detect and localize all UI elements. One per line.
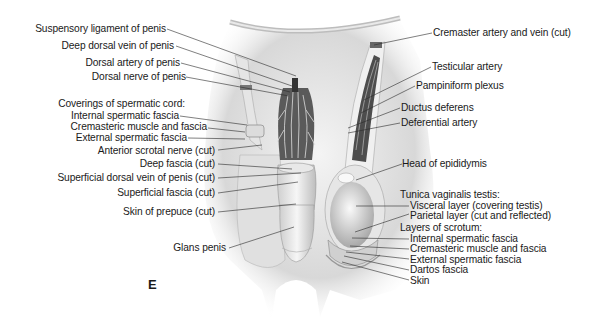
label-dorsal-artery: Dorsal artery of penis <box>85 57 180 68</box>
label-anterior-scrotal-nerve: Anterior scrotal nerve (cut) <box>98 145 215 156</box>
label-cremasteric-muscle-cord: Cremasteric muscle and fascia <box>71 121 207 132</box>
label-parietal-layer: Parietal layer (cut and reflected) <box>410 210 551 221</box>
label-pampiniform-plexus: Pampiniform plexus <box>416 80 504 91</box>
label-dorsal-nerve: Dorsal nerve of penis <box>92 71 186 82</box>
panel-letter: E <box>148 277 157 292</box>
label-deep-fascia: Deep fascia (cut) <box>140 158 215 169</box>
label-superficial-fascia: Superficial fascia (cut) <box>117 187 215 198</box>
label-coverings-heading: Coverings of spermatic cord: <box>58 98 185 109</box>
label-superficial-dorsal-vein: Superficial dorsal vein of penis (cut) <box>57 172 215 183</box>
label-head-of-epididymis: Head of epididymis <box>402 158 487 169</box>
label-deep-dorsal-vein: Deep dorsal vein of penis <box>62 40 174 51</box>
label-glans-penis: Glans penis <box>173 242 226 253</box>
label-skin-of-prepuce: Skin of prepuce (cut) <box>123 206 215 217</box>
label-ductus-deferens: Ductus deferens <box>401 102 474 113</box>
label-dartos-fascia: Dartos fascia <box>410 264 468 275</box>
label-external-spermatic-fascia-cord: External spermatic fascia <box>76 132 187 143</box>
label-cremasteric-muscle-scrotum: Cremasteric muscle and fascia <box>410 243 546 254</box>
label-deferential-artery: Deferential artery <box>401 117 477 128</box>
label-internal-spermatic-fascia-cord: Internal spermatic fascia <box>71 110 179 121</box>
label-scrotum-heading: Layers of scrotum: <box>400 222 482 233</box>
penis <box>277 78 316 262</box>
label-suspensory-ligament: Suspensory ligament of penis <box>35 23 166 34</box>
label-tunica-heading: Tunica vaginalis testis: <box>400 189 500 200</box>
label-skin: Skin <box>410 275 429 286</box>
label-testicular-artery: Testicular artery <box>432 61 502 72</box>
label-cremaster-artery: Cremaster artery and vein (cut) <box>433 27 571 38</box>
